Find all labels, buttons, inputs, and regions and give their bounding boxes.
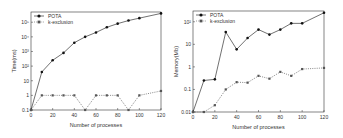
pota-marker bbox=[235, 48, 238, 51]
k-exclusion-marker bbox=[246, 82, 248, 84]
k-exclusion-marker bbox=[127, 109, 129, 111]
pota-marker bbox=[203, 79, 206, 82]
pota-marker bbox=[73, 41, 76, 44]
pota-marker bbox=[268, 33, 271, 36]
time-chart-svg: 0204060801001200.111010²10³10⁴10⁵Number … bbox=[0, 0, 172, 138]
y-tick-label: 10 bbox=[185, 41, 191, 47]
pota-marker bbox=[127, 19, 130, 22]
k-exclusion-marker bbox=[257, 75, 259, 77]
k-exclusion-marker bbox=[138, 94, 140, 96]
x-tick-label: 0 bbox=[192, 114, 195, 120]
pota-marker bbox=[257, 28, 260, 31]
pota-marker bbox=[138, 17, 141, 20]
k-exclusion-line bbox=[31, 91, 161, 110]
k-exclusion-marker bbox=[214, 104, 216, 106]
pota-marker bbox=[95, 31, 98, 34]
k-exclusion-marker bbox=[323, 67, 325, 69]
x-tick-label: 60 bbox=[93, 112, 99, 118]
pota-marker bbox=[214, 78, 217, 81]
pota-marker bbox=[290, 22, 293, 25]
plot-frame bbox=[193, 11, 324, 112]
k-exclusion-marker bbox=[41, 94, 43, 96]
k-exclusion-marker bbox=[30, 109, 32, 111]
x-tick-label: 120 bbox=[320, 114, 329, 120]
k-exclusion-marker bbox=[192, 111, 194, 113]
pota-marker bbox=[246, 37, 249, 40]
legend-label: k-exclusion bbox=[210, 18, 235, 24]
y-tick-label: 10⁴ bbox=[21, 34, 29, 40]
y-tick-label: 1 bbox=[26, 92, 29, 98]
pota-marker bbox=[301, 22, 304, 25]
legend-pota-marker bbox=[199, 13, 202, 16]
k-exclusion-marker bbox=[73, 94, 75, 96]
k-exclusion-marker bbox=[236, 81, 238, 83]
y-tick-label: 10³ bbox=[22, 48, 30, 54]
x-tick-label: 40 bbox=[234, 114, 240, 120]
pota-marker bbox=[41, 71, 44, 74]
x-axis-title: Number of processes bbox=[232, 124, 285, 130]
pota-marker bbox=[106, 26, 109, 29]
k-exclusion-marker bbox=[279, 71, 281, 73]
y-tick-label: 0.01 bbox=[181, 109, 191, 115]
pota-marker bbox=[279, 28, 282, 31]
k-exclusion-marker bbox=[290, 75, 292, 77]
y-tick-label: 1 bbox=[188, 64, 191, 70]
y-tick-label: 10² bbox=[22, 63, 30, 69]
k-exclusion-marker bbox=[117, 94, 119, 96]
k-exclusion-marker bbox=[225, 88, 227, 90]
y-axis-title: Memory(Mb) bbox=[173, 46, 179, 77]
pota-marker bbox=[323, 11, 326, 14]
pota-marker bbox=[160, 12, 163, 15]
k-exclusion-marker bbox=[268, 78, 270, 80]
pota-marker bbox=[62, 52, 65, 55]
x-tick-label: 0 bbox=[30, 112, 33, 118]
legend-k-exclusion-marker bbox=[38, 21, 41, 24]
legend-k-exclusion-marker bbox=[200, 20, 203, 23]
y-tick-label: 10 bbox=[23, 78, 29, 84]
k-exclusion-marker bbox=[95, 94, 97, 96]
x-tick-label: 120 bbox=[157, 112, 166, 118]
x-tick-label: 100 bbox=[135, 112, 144, 118]
x-tick-label: 40 bbox=[72, 112, 78, 118]
x-tick-label: 60 bbox=[256, 114, 262, 120]
legend-label: k-exclusion bbox=[48, 19, 73, 25]
y-tick-label: 0.1 bbox=[22, 107, 29, 113]
x-tick-label: 80 bbox=[115, 112, 121, 118]
pota-marker bbox=[51, 59, 54, 62]
legend-pota-marker bbox=[37, 14, 40, 17]
x-tick-label: 20 bbox=[50, 112, 56, 118]
k-exclusion-marker bbox=[106, 94, 108, 96]
k-exclusion-marker bbox=[301, 68, 303, 70]
pota-marker bbox=[224, 31, 227, 34]
k-exclusion-marker bbox=[203, 111, 205, 113]
x-tick-label: 100 bbox=[298, 114, 307, 120]
y-tick-label: 0.1 bbox=[184, 86, 191, 92]
x-tick-label: 20 bbox=[212, 114, 218, 120]
x-tick-label: 80 bbox=[278, 114, 284, 120]
pota-line bbox=[193, 13, 324, 112]
memory-chart: 0204060801001200.010.111010²Number of pr… bbox=[172, 0, 343, 138]
x-axis-title: Number of processes bbox=[70, 122, 123, 128]
y-tick-label: 10² bbox=[184, 19, 192, 25]
k-exclusion-line bbox=[193, 68, 324, 112]
k-exclusion-marker bbox=[84, 109, 86, 111]
pota-marker bbox=[84, 36, 87, 39]
pota-marker bbox=[116, 22, 119, 25]
k-exclusion-marker bbox=[52, 94, 54, 96]
k-exclusion-marker bbox=[62, 94, 64, 96]
k-exclusion-marker bbox=[160, 90, 162, 92]
y-tick-label: 10⁵ bbox=[21, 19, 29, 25]
time-chart: 0204060801001200.111010²10³10⁴10⁵Number … bbox=[0, 0, 172, 138]
y-axis-title: Time(ms) bbox=[11, 49, 17, 72]
memory-chart-svg: 0204060801001200.010.111010²Number of pr… bbox=[172, 0, 343, 138]
